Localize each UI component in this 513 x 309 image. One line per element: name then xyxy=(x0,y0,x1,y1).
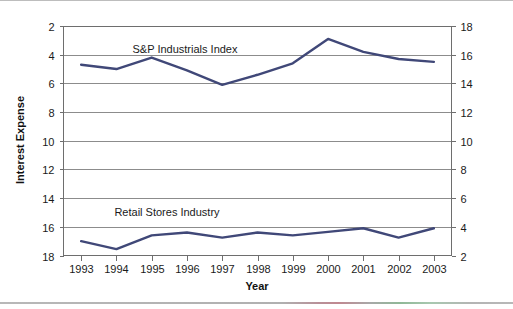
x-tick-label-1993: 1993 xyxy=(69,263,93,275)
right-tick-label-18: 18 xyxy=(461,21,473,33)
left-tick-label-8: 12 xyxy=(42,164,54,176)
left-tick-label-12: 8 xyxy=(48,107,54,119)
right-tick-label-10: 10 xyxy=(461,136,473,148)
series-annotation-1: Retail Stores Industry xyxy=(114,206,220,218)
right-tick-label-6: 6 xyxy=(461,193,467,205)
plot-area-background xyxy=(63,26,452,255)
left-tick-label-4: 16 xyxy=(42,222,54,234)
right-tick-label-8: 8 xyxy=(461,164,467,176)
x-axis-ticks xyxy=(82,256,435,261)
x-axis-title: Year xyxy=(245,280,269,292)
left-tick-label-18: 2 xyxy=(48,21,54,33)
left-tick-label-2: 18 xyxy=(42,251,54,263)
x-tick-label-1994: 1994 xyxy=(104,263,128,275)
x-tick-label-2001: 2001 xyxy=(351,263,375,275)
right-tick-label-16: 16 xyxy=(461,50,473,62)
right-tick-label-4: 4 xyxy=(461,222,467,234)
x-tick-label-2002: 2002 xyxy=(387,263,411,275)
x-tick-label-1999: 1999 xyxy=(281,263,305,275)
right-tick-label-12: 12 xyxy=(461,107,473,119)
right-axis-tick-labels: 24681012141618 xyxy=(461,21,473,263)
left-axis-ticks xyxy=(60,27,64,257)
x-tick-label-2003: 2003 xyxy=(422,263,446,275)
x-tick-label-1998: 1998 xyxy=(246,263,270,275)
left-tick-label-14: 6 xyxy=(48,78,54,90)
series-annotation-0: S&P Industrials Index xyxy=(133,43,238,55)
right-axis-ticks xyxy=(452,27,456,257)
left-tick-label-10: 10 xyxy=(42,136,54,148)
left-tick-label-6: 14 xyxy=(42,193,54,205)
y-axis-title: Interest Expense xyxy=(14,96,26,184)
x-axis-tick-labels: 1993199419951996199719981999200020012002… xyxy=(69,263,446,275)
x-tick-label-1997: 1997 xyxy=(210,263,234,275)
left-axis-tick-labels: 18161412108642 xyxy=(42,21,54,263)
interest-expense-line-chart: 18161412108642 24681012141618 1993199419… xyxy=(0,0,513,309)
x-tick-label-2000: 2000 xyxy=(316,263,340,275)
right-tick-label-2: 2 xyxy=(461,251,467,263)
x-tick-label-1995: 1995 xyxy=(140,263,164,275)
right-tick-label-14: 14 xyxy=(461,78,473,90)
left-tick-label-16: 4 xyxy=(48,50,54,62)
x-tick-label-1996: 1996 xyxy=(175,263,199,275)
chart-figure: 18161412108642 24681012141618 1993199419… xyxy=(0,0,513,309)
bottom-divider-rule xyxy=(0,302,513,304)
